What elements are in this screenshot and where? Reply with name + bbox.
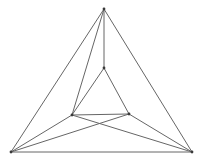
outer-right-edge xyxy=(104,9,192,152)
figure-svg xyxy=(0,0,203,163)
inner-bottom-right-vertex xyxy=(128,113,131,116)
connector-bottomleft-inner-right xyxy=(11,114,129,152)
inner-left-edge xyxy=(72,68,104,115)
inner-top-vertex xyxy=(103,67,106,70)
outer-bottom-left-vertex xyxy=(10,151,13,154)
line-drawing-figure xyxy=(0,0,203,163)
connector-bottomright-inner-left xyxy=(72,115,192,152)
inner-right-edge xyxy=(104,68,129,114)
inner-bottom-left-vertex xyxy=(71,114,74,117)
edge-layer xyxy=(11,9,192,152)
outer-left-edge xyxy=(11,9,104,152)
connector-apex-inner-left xyxy=(72,9,104,115)
connector-bottomleft-inner-left xyxy=(11,115,72,152)
vertex-layer xyxy=(10,8,194,154)
outer-top-vertex xyxy=(103,8,106,11)
connector-bottomright-inner-right xyxy=(129,114,192,152)
inner-bottom-edge xyxy=(72,114,129,115)
outer-bottom-right-vertex xyxy=(191,151,194,154)
